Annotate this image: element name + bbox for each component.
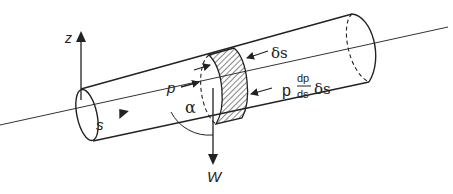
z-axis-label: z [64, 30, 72, 46]
svg-text:p: p [282, 82, 291, 99]
weight-label: W [207, 168, 223, 185]
dp-numerator: dp [297, 72, 309, 84]
pressure-arrows-left [181, 65, 210, 87]
weight-arrow-icon [208, 154, 218, 165]
flow-direction-arrow-icon [117, 107, 130, 119]
pressure-gradient-label: p dp ds δs [282, 72, 331, 100]
z-arrow-icon [76, 31, 86, 42]
pressure-arrows-right [247, 51, 272, 94]
weight-vector: W [207, 88, 223, 185]
fluid-element [201, 48, 248, 124]
stream-tube-diagram: z p δs p dp ds δs [0, 0, 453, 194]
svg-text:δs: δs [314, 80, 331, 98]
alpha-label: α [185, 98, 196, 117]
s-label: s [96, 116, 104, 133]
pressure-label-p: p [166, 79, 175, 96]
delta-s-label: δs [271, 44, 288, 62]
ds-denominator: ds [297, 88, 309, 100]
